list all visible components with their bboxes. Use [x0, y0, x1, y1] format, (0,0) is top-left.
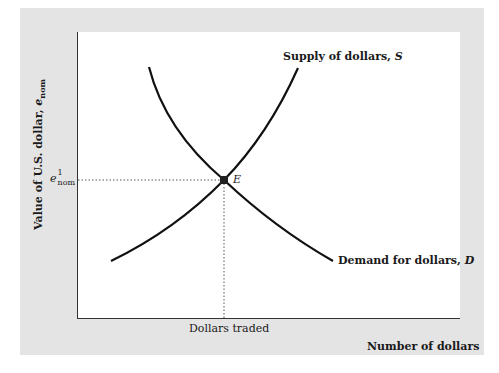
equilibrium-point	[220, 176, 228, 184]
equilibrium-label: E	[233, 173, 241, 186]
y-tick-label: e1nom	[50, 170, 79, 187]
x-axis-label: Number of dollars	[367, 340, 479, 353]
demand-curve	[149, 67, 333, 261]
supply-curve	[111, 68, 298, 261]
x-tick-label: Dollars traded	[189, 322, 269, 335]
supply-label: Supply of dollars, S	[283, 50, 403, 63]
y-axis-label: Value of U.S. dollar, enom	[32, 79, 47, 230]
demand-label: Demand for dollars, D	[338, 254, 474, 267]
